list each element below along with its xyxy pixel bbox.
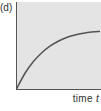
x-axis-label: time t — [73, 93, 99, 105]
x-axis-label-variable: t — [96, 93, 99, 104]
chart-figure: (d) time t — [0, 0, 101, 111]
plot-background — [16, 2, 101, 89]
x-axis-label-text: time — [73, 93, 96, 104]
